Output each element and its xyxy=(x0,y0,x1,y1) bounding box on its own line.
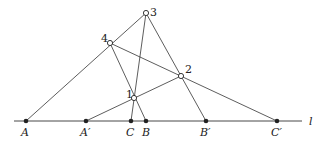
point-4 xyxy=(107,40,112,45)
point-A-prime xyxy=(84,119,89,124)
label-3: 3 xyxy=(150,6,157,19)
label-C-prime: C′ xyxy=(271,126,282,139)
point-B xyxy=(144,119,149,124)
label-A-prime: A′ xyxy=(79,126,91,139)
label-B-prime: B′ xyxy=(199,126,211,139)
point-B-prime xyxy=(204,119,209,124)
segment-4-C' xyxy=(110,43,277,121)
label-2: 2 xyxy=(185,63,192,76)
label-C: C xyxy=(126,126,135,139)
point-C xyxy=(129,119,134,124)
point-2 xyxy=(178,73,183,78)
projective-geometry-diagram: l A A′ C B B′ C′ 1 2 3 4 xyxy=(0,0,324,146)
point-A xyxy=(24,119,29,124)
point-3 xyxy=(143,10,148,15)
label-A: A xyxy=(20,126,29,139)
line-l-label: l xyxy=(309,115,313,128)
label-B: B xyxy=(141,126,150,139)
label-4: 4 xyxy=(101,32,108,45)
segment-A-3 xyxy=(26,13,146,121)
label-1: 1 xyxy=(126,88,133,101)
segment-3-B' xyxy=(146,13,206,121)
point-C-prime xyxy=(275,119,280,124)
